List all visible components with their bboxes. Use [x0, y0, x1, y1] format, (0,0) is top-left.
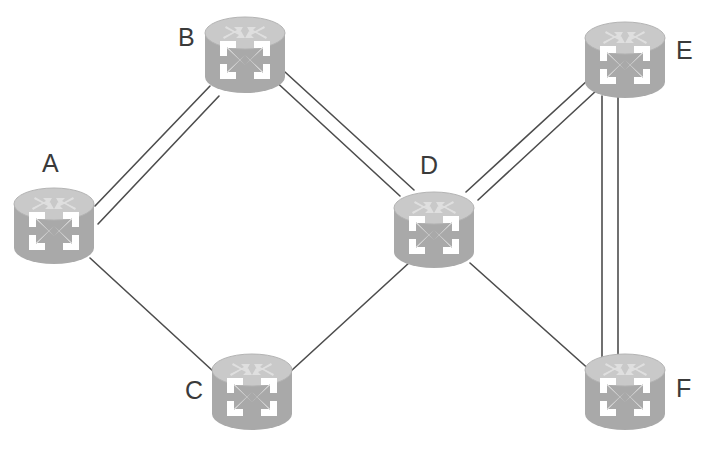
network-node-f[interactable]: F	[583, 352, 667, 432]
router-icon	[12, 186, 96, 266]
router-icon	[392, 190, 476, 270]
network-node-e[interactable]: E	[583, 20, 667, 100]
network-node-a[interactable]: A	[12, 186, 96, 266]
router-icon	[583, 352, 667, 432]
network-node-d[interactable]: D	[392, 190, 476, 270]
nodes-layer: A	[0, 0, 705, 451]
node-label-d: D	[420, 153, 439, 178]
node-label-e: E	[676, 38, 693, 63]
network-node-c[interactable]: C	[210, 352, 294, 432]
router-icon	[583, 20, 667, 100]
node-label-f: F	[676, 376, 692, 401]
network-diagram: A	[0, 0, 705, 451]
router-icon	[210, 352, 294, 432]
node-label-a: A	[42, 151, 59, 176]
node-label-b: B	[178, 25, 195, 50]
node-label-c: C	[185, 378, 204, 403]
router-icon	[203, 15, 287, 95]
network-node-b[interactable]: B	[203, 15, 287, 95]
